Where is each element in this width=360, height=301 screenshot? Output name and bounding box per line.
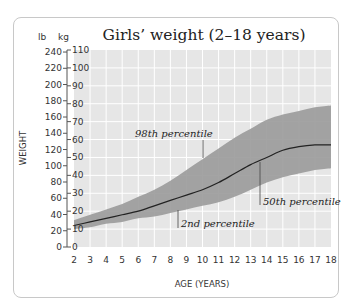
x-tick: 7 <box>151 255 157 265</box>
y-tick-kg: 20 <box>72 206 84 216</box>
x-tick: 5 <box>119 255 125 265</box>
x-tick: 3 <box>87 255 93 265</box>
y-tick-lb: 200 <box>45 80 62 90</box>
y-tick-kg: 90 <box>72 81 84 91</box>
x-axis-label: AGE (YEARS) <box>175 279 230 289</box>
label-2nd-percentile: 2nd percentile <box>180 218 255 229</box>
y-tick-lb: 100 <box>45 161 62 171</box>
y-tick-kg: 0 <box>72 242 78 252</box>
y-tick-lb: 20 <box>51 226 63 236</box>
y-tick-kg: 30 <box>72 188 84 198</box>
y-tick-lb: 140 <box>45 128 62 138</box>
x-tick: 15 <box>277 255 288 265</box>
weight-chart: Girls’ weight (2–18 years) lb kg 0102030… <box>0 0 360 301</box>
y-tick-kg: 100 <box>72 63 89 73</box>
y-tick-kg: 70 <box>72 117 84 127</box>
y-tick-kg: 60 <box>72 135 84 145</box>
unit-lb-label: lb <box>38 32 47 42</box>
x-tick: 9 <box>184 255 190 265</box>
y-tick-lb: 220 <box>45 63 62 73</box>
y-tick-kg: 40 <box>72 170 84 180</box>
x-tick: 8 <box>168 255 174 265</box>
x-tick: 4 <box>103 255 109 265</box>
y-tick-lb: 160 <box>45 112 62 122</box>
y-tick-lb: 0 <box>56 242 62 252</box>
label-50th-percentile: 50th percentile <box>263 196 341 207</box>
x-tick: 11 <box>213 255 224 265</box>
y-tick-kg: 80 <box>72 99 84 109</box>
x-tick: 6 <box>135 255 141 265</box>
y-tick-kg: 10 <box>72 224 84 234</box>
y-tick-lb: 40 <box>51 210 63 220</box>
y-tick-lb: 120 <box>45 145 62 155</box>
y-tick-kg: 110 <box>72 45 89 55</box>
unit-kg-label: kg <box>58 32 69 42</box>
x-tick: 13 <box>245 255 256 265</box>
x-tick: 16 <box>293 255 305 265</box>
y-tick-lb: 240 <box>45 47 62 57</box>
label-98th-percentile: 98th percentile <box>135 128 213 139</box>
x-tick: 17 <box>309 255 320 265</box>
x-tick: 12 <box>229 255 240 265</box>
y-tick-lb: 180 <box>45 96 62 106</box>
y-axis-label: WEIGHT <box>18 130 28 165</box>
y-tick-lb: 60 <box>51 193 63 203</box>
x-tick: 2 <box>71 255 77 265</box>
x-tick: 10 <box>197 255 209 265</box>
chart-title: Girls’ weight (2–18 years) <box>103 26 306 44</box>
y-tick-lb: 80 <box>51 177 63 187</box>
y-tick-kg: 50 <box>72 152 84 162</box>
x-tick: 18 <box>325 255 337 265</box>
x-tick: 14 <box>261 255 273 265</box>
